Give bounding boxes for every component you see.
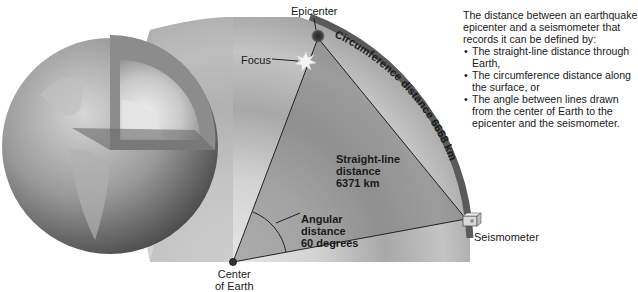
straight-line-line-3: 6371 km (336, 177, 400, 189)
focus-label: Focus (241, 54, 271, 66)
center-line-2: of Earth (215, 280, 254, 292)
earth-center-marker-icon (230, 259, 237, 266)
explanation-intro: The distance between an earthquake epice… (463, 9, 638, 45)
seismometer-label: Seismometer (474, 231, 539, 243)
center-line-1: Center (215, 268, 254, 280)
straight-line-line-1: Straight-line (336, 153, 400, 165)
globe (2, 35, 218, 254)
straight-line-line-2: distance (336, 165, 400, 177)
center-of-earth-label: Center of Earth (215, 268, 254, 292)
straight-line-distance-label: Straight-line distance 6371 km (336, 153, 400, 189)
angular-line-3: 60 degrees (301, 237, 358, 249)
explanation-text: The distance between an earthquake epice… (463, 9, 638, 129)
epicenter-marker-icon (311, 29, 325, 43)
epicenter-label: Epicenter (291, 5, 337, 17)
angular-line-1: Angular (301, 213, 358, 225)
bullet-straight-line: The straight-line distance through Earth… (463, 45, 638, 69)
bullet-circumference: The circumference distance along the sur… (463, 69, 638, 93)
bullet-angle: The angle between lines drawn from the c… (463, 93, 638, 129)
angular-distance-label: Angular distance 60 degrees (301, 213, 358, 249)
seismometer-icon (463, 213, 481, 226)
explanation-bullets: The straight-line distance through Earth… (463, 45, 638, 129)
angular-line-2: distance (301, 225, 358, 237)
